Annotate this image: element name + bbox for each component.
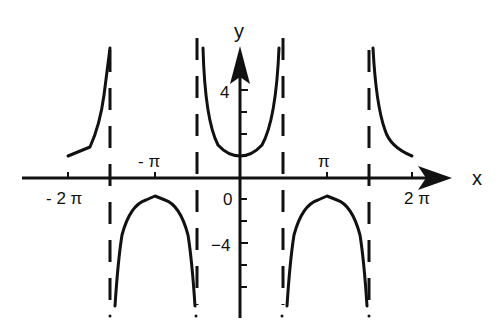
x-tick-label-neg-pi: - π <box>138 152 160 171</box>
y-tick-label-0: 0 <box>223 190 232 209</box>
x-tick-label-2pi: 2 π <box>404 189 430 208</box>
x-tick-label-pi: π <box>318 152 330 171</box>
branch-5 <box>373 48 412 156</box>
x-tick-label-neg-2pi: - 2 π <box>46 189 82 208</box>
branch-4 <box>287 196 367 306</box>
y-axis-label: y <box>234 20 244 42</box>
branch-2 <box>115 196 195 306</box>
y-tick-label-4: 4 <box>220 83 229 102</box>
x-axis-label: x <box>472 167 482 189</box>
secant-graph: y x 4 0 −4 - 2 π - π π 2 π <box>0 0 502 335</box>
branch-1 <box>68 48 110 156</box>
y-tick-label-neg-4: −4 <box>211 236 230 255</box>
